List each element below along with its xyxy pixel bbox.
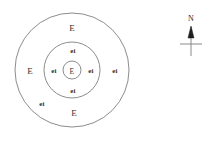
north-arrow-graphic xyxy=(176,14,206,58)
label-outer-bottom: E xyxy=(71,108,77,118)
compass-arrowhead-icon xyxy=(188,26,194,38)
label-middle-right: ei xyxy=(88,67,93,75)
label-outer-left: E xyxy=(27,66,33,76)
figure-canvas: E E E ei ei ei ei ei ei E N xyxy=(0,0,213,143)
label-center: E xyxy=(70,67,75,76)
label-outer-top: E xyxy=(69,23,75,33)
label-middle-left: ei xyxy=(51,67,56,75)
label-middle-bottom: ei xyxy=(70,87,75,95)
label-middle-top: ei xyxy=(70,47,75,55)
north-arrow: N xyxy=(176,14,206,58)
label-outer-lower-left: ei xyxy=(39,100,44,108)
label-outer-right: ei xyxy=(112,67,117,75)
